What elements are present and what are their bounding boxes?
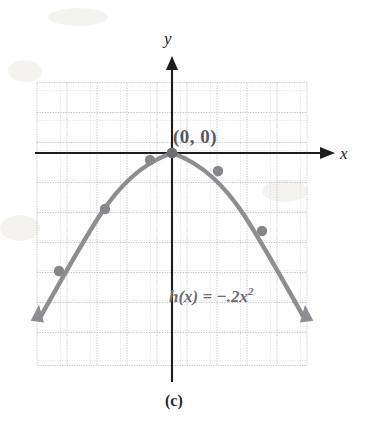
function-equation-label: h(x) = −.2x2	[169, 285, 254, 307]
data-point	[167, 148, 178, 159]
coordinate-plane	[0, 0, 371, 441]
data-point	[100, 204, 110, 214]
data-point	[257, 226, 267, 236]
function-equation-exponent: 2	[248, 285, 254, 297]
data-point	[54, 266, 64, 276]
y-axis-label: y	[164, 30, 172, 47]
function-equation-base: h(x) = −.2x	[169, 287, 248, 306]
x-axis-label: x	[340, 145, 348, 162]
panel-label: (c)	[165, 392, 183, 410]
parabola-figure: y x (0, 0) h(x) = −.2x2 (c)	[0, 0, 371, 441]
data-point	[213, 166, 223, 176]
origin-point-label: (0, 0)	[173, 126, 217, 148]
data-point	[145, 155, 155, 165]
